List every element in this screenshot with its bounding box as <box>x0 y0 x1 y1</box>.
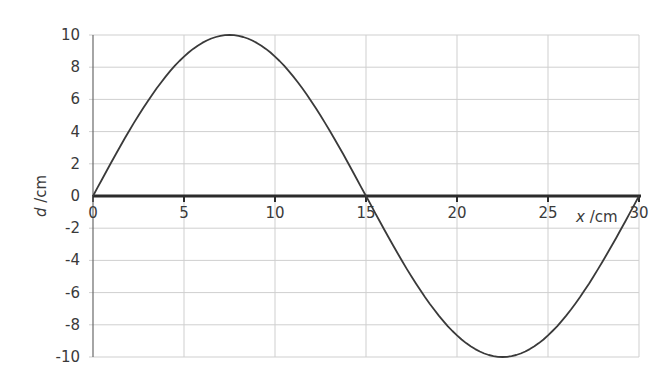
y-tick-label: -4 <box>65 251 80 269</box>
y-tick-label: 0 <box>70 187 80 205</box>
x-tick-label: 20 <box>447 204 466 222</box>
x-tick-label: 10 <box>265 204 284 222</box>
y-axis-label: d /cm <box>32 175 50 217</box>
y-tick-label: 4 <box>70 123 80 141</box>
y-tick-label: -2 <box>65 219 80 237</box>
wave-chart: 1086420-2-4-6-8-10051015202530 d /cm x /… <box>0 0 667 391</box>
x-tick-label: 25 <box>538 204 557 222</box>
y-tick-label: 10 <box>61 26 80 44</box>
x-tick-label: 0 <box>88 204 98 222</box>
y-tick-label: 8 <box>70 58 80 76</box>
y-tick-label: 6 <box>70 90 80 108</box>
y-tick-label: -6 <box>65 284 80 302</box>
y-tick-label: 2 <box>70 155 80 173</box>
x-axis-label: x /cm <box>575 208 618 226</box>
x-tick-label: 5 <box>179 204 189 222</box>
y-tick-label: -10 <box>56 348 81 366</box>
y-tick-label: -8 <box>65 316 80 334</box>
